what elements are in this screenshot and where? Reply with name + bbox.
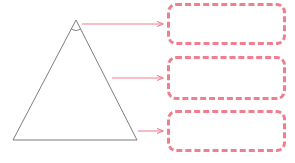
callout-box-3-text [170, 113, 283, 121]
callout-box-2[interactable] [167, 56, 286, 100]
callout-box-2-text [170, 59, 283, 67]
apex-angle-arc-icon [71, 29, 80, 30]
diagram-canvas [0, 0, 295, 163]
callout-box-3[interactable] [167, 110, 286, 152]
callout-box-1-text [170, 6, 283, 14]
triangle-shape [13, 20, 137, 140]
callout-box-1[interactable] [167, 3, 286, 45]
